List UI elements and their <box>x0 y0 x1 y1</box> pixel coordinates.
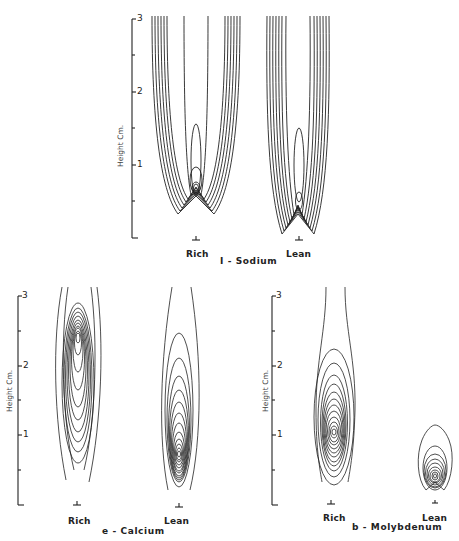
sodium-ytick-1: 1 <box>137 159 143 169</box>
sodium-rich-contours <box>152 16 240 214</box>
calcium-rich-label: Rich <box>68 516 91 526</box>
calcium-ylabel: Height Cm. <box>5 370 14 412</box>
molybdenum-ytick-2: 2 <box>277 360 283 370</box>
calcium-ytick-3: 3 <box>22 290 28 300</box>
sodium-burner-markers <box>192 236 303 240</box>
calcium-rich-contours <box>56 287 101 482</box>
molybdenum-lean-contours <box>418 425 452 490</box>
molybdenum-ylabel: Height Cm. <box>261 370 270 412</box>
contour-figure <box>0 0 459 541</box>
molybdenum-ytick-3: 3 <box>276 290 282 300</box>
molybdenum-ytick-1: 1 <box>277 429 283 439</box>
calcium-lean-contours <box>162 287 200 490</box>
calcium-ytick-2: 2 <box>23 360 29 370</box>
calcium-ytick-1: 1 <box>23 429 29 439</box>
molybdenum-caption: b - Molybdenum <box>352 522 442 532</box>
sodium-lean-contours <box>267 16 329 234</box>
sodium-ylabel: Height Cm. <box>116 125 125 167</box>
sodium-ytick-2: 2 <box>137 86 143 96</box>
calcium-burner-markers <box>73 501 183 507</box>
calcium-y-axis <box>18 296 24 505</box>
molybdenum-y-axis <box>272 296 278 505</box>
sodium-lean-label: Lean <box>286 249 311 259</box>
sodium-caption: I - Sodium <box>220 256 277 266</box>
sodium-ytick-3: 3 <box>137 13 143 23</box>
sodium-y-axis <box>132 19 138 238</box>
calcium-lean-label: Lean <box>164 516 189 526</box>
molybdenum-rich-label: Rich <box>323 513 346 523</box>
calcium-caption: e - Calcium <box>102 526 165 536</box>
molybdenum-burner-markers <box>327 500 438 504</box>
molybdenum-rich-contours <box>314 287 355 485</box>
sodium-rich-label: Rich <box>186 249 209 259</box>
